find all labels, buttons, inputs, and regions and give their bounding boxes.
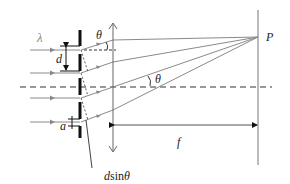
angle-axis-label: θ bbox=[155, 73, 161, 85]
incoming-ray-arrows bbox=[50, 48, 55, 125]
diffraction-diagram bbox=[0, 0, 290, 184]
path-difference-label: dsinθ bbox=[104, 170, 130, 182]
angle-arc-axis bbox=[148, 76, 151, 86]
dimension-ledges bbox=[60, 46, 80, 126]
dsin-leader bbox=[86, 120, 92, 168]
slit-spacing-label: d bbox=[56, 53, 62, 65]
wavelength-label: λ bbox=[37, 31, 43, 44]
angle-top-label: θ bbox=[96, 29, 102, 41]
point-p-label: P bbox=[266, 31, 273, 43]
diffracted-ray-arrows bbox=[96, 43, 101, 119]
incoming-rays bbox=[30, 50, 80, 122]
path-difference-theta: θ bbox=[124, 169, 130, 183]
focal-length-label: f bbox=[177, 136, 180, 148]
path-difference-lines bbox=[81, 50, 88, 120]
slit-width-label: a bbox=[60, 120, 66, 132]
angle-arc-top bbox=[106, 42, 108, 50]
path-difference-sin: sin bbox=[110, 169, 124, 183]
